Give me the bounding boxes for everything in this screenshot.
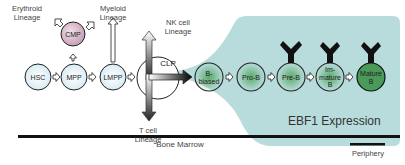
periphery-bar	[350, 143, 385, 146]
arrow-cmp-right	[86, 22, 94, 30]
arrow-lmpp-clp	[128, 73, 135, 82]
label-mature-b: Mature B	[357, 70, 385, 85]
arrow-mpp-lmpp	[89, 73, 96, 82]
label-cmp: CMP	[60, 31, 86, 39]
arrow-mpp-cmp	[70, 54, 77, 61]
bone-marrow-bar	[18, 135, 400, 138]
label-ebf1-expression: EBF1 Expression	[288, 114, 381, 128]
label-mpp: MPP	[61, 74, 87, 82]
label-hsc: HSC	[25, 74, 51, 82]
arrow-erythroid	[55, 19, 63, 27]
label-pre-b: Pre-B	[277, 74, 305, 82]
label-erythroid-lineage: Erythroid Lineage	[2, 4, 52, 22]
label-pro-b: Pro-B	[237, 74, 265, 82]
label-nk-lineage: NK cell Lineage	[158, 18, 198, 36]
label-clp: CLP	[155, 60, 181, 68]
label-immature-b: Im- mature B	[316, 66, 344, 89]
arrow-myeloid	[108, 18, 118, 62]
arrow-hsc-mpp	[53, 73, 60, 82]
label-myeloid-lineage: Myeloid Lineage	[93, 4, 133, 22]
label-b-biased: B- biased	[195, 70, 223, 85]
label-bone-marrow: Bone Marrow	[140, 140, 220, 149]
label-periphery: Periphery	[348, 149, 388, 158]
label-lmpp: LMPP	[100, 74, 126, 82]
